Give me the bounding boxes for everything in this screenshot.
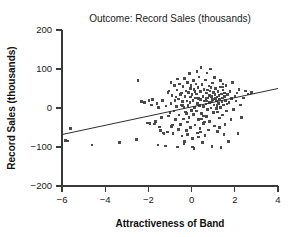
data-point <box>209 68 212 71</box>
data-point <box>197 136 200 139</box>
data-point <box>197 97 200 100</box>
data-point <box>219 106 222 109</box>
data-point <box>190 109 193 112</box>
data-point <box>201 141 204 144</box>
data-point <box>196 132 199 135</box>
data-point <box>216 104 219 107</box>
data-point <box>166 131 169 134</box>
data-point <box>174 99 177 102</box>
data-point <box>192 99 195 102</box>
data-point <box>199 127 202 130</box>
data-point <box>189 96 192 99</box>
data-point <box>200 112 203 115</box>
data-point <box>202 95 205 98</box>
data-point <box>143 101 146 104</box>
data-point <box>215 107 218 110</box>
data-point <box>178 114 181 117</box>
data-point <box>189 87 192 90</box>
data-point <box>140 100 143 103</box>
data-point <box>242 97 245 100</box>
data-point <box>160 116 163 119</box>
data-point <box>192 79 195 82</box>
data-point <box>232 108 235 111</box>
data-point <box>156 102 159 105</box>
data-point <box>237 132 240 135</box>
data-point <box>207 129 210 132</box>
y-tick-label: −100 <box>31 141 52 152</box>
data-point <box>148 99 151 102</box>
data-point <box>199 131 202 134</box>
x-axis-title: Attractiveness of Band <box>116 218 225 229</box>
data-point <box>206 89 209 92</box>
data-point <box>213 125 216 128</box>
x-tick-label: −6 <box>57 194 68 205</box>
data-point <box>154 120 157 123</box>
x-tick-label: −2 <box>143 194 154 205</box>
data-point <box>220 146 223 149</box>
data-point <box>183 143 186 146</box>
data-point <box>118 141 121 144</box>
data-point <box>175 96 178 99</box>
data-point <box>179 93 182 96</box>
data-point <box>167 115 170 118</box>
data-point <box>211 82 214 85</box>
data-point <box>206 72 209 75</box>
data-point <box>216 130 219 133</box>
data-point <box>185 90 188 93</box>
data-point <box>195 93 198 96</box>
data-point <box>167 91 170 94</box>
data-point <box>171 124 174 127</box>
data-point <box>199 90 202 93</box>
data-point <box>193 147 196 150</box>
data-point <box>211 145 214 148</box>
data-point <box>203 88 206 91</box>
data-point <box>226 93 229 96</box>
data-point <box>205 100 208 103</box>
data-point <box>181 135 184 138</box>
data-point <box>135 138 138 141</box>
data-point <box>67 140 70 143</box>
data-point <box>222 104 225 107</box>
data-point <box>227 140 230 143</box>
data-point <box>149 122 152 125</box>
data-point <box>212 91 215 94</box>
data-point <box>151 98 154 101</box>
data-point <box>195 110 198 113</box>
data-point <box>200 66 203 69</box>
data-point <box>186 100 189 103</box>
data-point <box>175 105 178 108</box>
data-point <box>230 118 233 121</box>
data-point <box>221 114 224 117</box>
data-point <box>174 118 177 121</box>
data-point <box>184 95 187 98</box>
chart-canvas: Outcome: Record Sales (thousands) Record… <box>0 0 299 237</box>
trend-line <box>62 89 278 135</box>
data-point <box>186 121 189 124</box>
data-point <box>163 132 166 135</box>
data-point <box>185 112 188 115</box>
data-point <box>202 115 205 118</box>
data-point <box>225 84 228 87</box>
data-point <box>210 107 213 110</box>
data-point <box>182 85 185 88</box>
data-point <box>64 139 67 142</box>
chart-title: Outcome: Record Sales (thousands) <box>89 13 251 24</box>
data-point <box>195 83 198 86</box>
data-point <box>217 90 220 93</box>
data-point <box>250 91 253 94</box>
y-axis-ticks: −200−1000100200 <box>31 24 62 191</box>
data-point <box>219 86 222 89</box>
data-point <box>220 93 223 96</box>
data-point <box>239 104 242 107</box>
data-point <box>194 97 197 100</box>
data-point <box>69 127 72 130</box>
data-point <box>206 108 209 111</box>
data-point <box>170 81 173 84</box>
x-axis-ticks: −6−4−2024 <box>57 186 281 205</box>
data-point <box>200 118 203 121</box>
data-point <box>153 123 156 126</box>
data-point <box>203 121 206 124</box>
data-point <box>182 118 185 121</box>
data-point <box>197 118 200 121</box>
data-point <box>222 83 225 86</box>
